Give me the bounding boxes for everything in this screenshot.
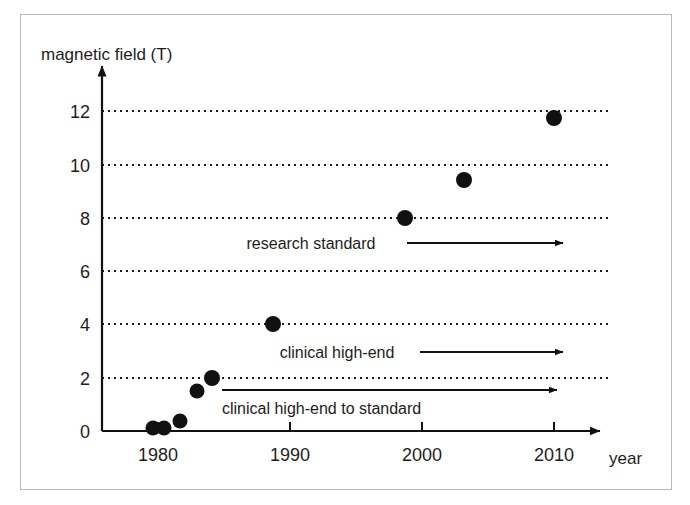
x-axis-title: year [609, 449, 642, 468]
y-tick-label-4: 4 [80, 315, 90, 335]
y-tick-label-0: 0 [80, 422, 90, 442]
data-point [157, 421, 172, 436]
x-tick-label-1990: 1990 [270, 445, 310, 465]
data-point [265, 316, 281, 332]
x-tick-labels: 1980 1990 2000 2010 [138, 445, 574, 465]
annotation-research-standard: research standard [247, 235, 563, 252]
annotation-clinical-high-end-to-standard: clinical high-end to standard [222, 390, 557, 417]
data-point [173, 414, 188, 429]
y-axis-title: magnetic field (T) [41, 45, 172, 64]
x-tick-label-2010: 2010 [534, 445, 574, 465]
y-tick-labels: 12 10 8 6 4 2 0 [70, 102, 90, 442]
data-point [190, 384, 205, 399]
x-tick-marks [158, 422, 554, 431]
figure-root: magnetic field (T) year 12 10 8 6 [0, 0, 690, 505]
data-point [546, 110, 562, 126]
y-tick-label-6: 6 [80, 262, 90, 282]
data-point [204, 370, 220, 386]
data-point-group [146, 110, 563, 436]
y-tick-label-2: 2 [80, 369, 90, 389]
y-tick-label-10: 10 [70, 156, 90, 176]
data-point [456, 172, 472, 188]
data-point [397, 210, 413, 226]
scatter-chart: magnetic field (T) year 12 10 8 6 [0, 0, 690, 505]
x-tick-label-1980: 1980 [138, 445, 178, 465]
y-tick-label-8: 8 [80, 209, 90, 229]
annotation-label-clinical-high-end-to-standard: clinical high-end to standard [222, 400, 421, 417]
annotation-label-clinical-high-end: clinical high-end [280, 344, 395, 361]
annotation-clinical-high-end: clinical high-end [280, 344, 563, 361]
annotation-label-research-standard: research standard [247, 235, 376, 252]
x-tick-label-2000: 2000 [402, 445, 442, 465]
y-tick-label-12: 12 [70, 102, 90, 122]
